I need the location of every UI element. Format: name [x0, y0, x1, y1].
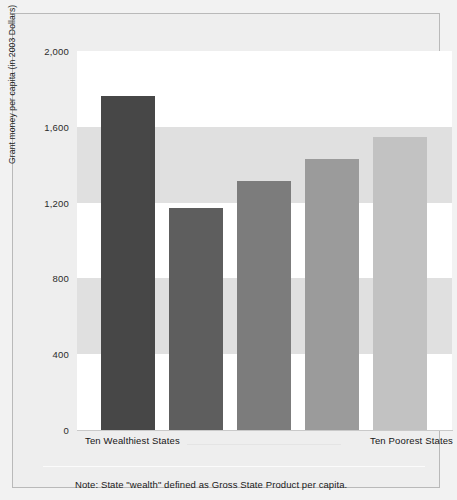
- category-label-row: Ten Wealthiest States Ten Poorest States: [77, 435, 453, 453]
- bar: [305, 159, 359, 430]
- chart-figure: 04008001,2001,6002,000 Grant money per c…: [0, 0, 457, 500]
- bar: [169, 208, 223, 430]
- chart-note: Note: State "wealth" defined as Gross St…: [75, 479, 347, 490]
- y-axis-tick-labels: 04008001,2001,6002,000: [21, 51, 69, 430]
- category-axis-rule: [187, 444, 341, 445]
- y-axis-title: Grant money per capita (in 2003 Dollars): [7, 0, 17, 164]
- y-axis-tick-label: 1,600: [23, 122, 69, 133]
- y-axis-tick-label: 1,200: [23, 198, 69, 209]
- category-label-right: Ten Poorest States: [370, 435, 453, 446]
- plot-area: [77, 51, 452, 430]
- y-axis-tick-label: 0: [23, 425, 69, 436]
- bar: [101, 96, 155, 430]
- y-axis-tick-label: 2,000: [23, 46, 69, 57]
- bar: [373, 137, 427, 430]
- y-axis-tick-label: 800: [23, 273, 69, 284]
- chart-frame: 04008001,2001,6002,000 Grant money per c…: [12, 13, 440, 488]
- bar-series: [77, 51, 452, 430]
- x-axis-line: [77, 430, 453, 431]
- note-separator: [43, 466, 425, 467]
- category-label-left: Ten Wealthiest States: [85, 435, 180, 446]
- y-axis-tick-label: 400: [23, 349, 69, 360]
- bar: [237, 181, 291, 430]
